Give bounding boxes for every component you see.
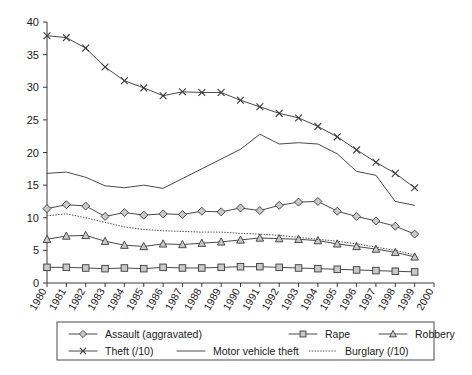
data-point-marker (62, 201, 70, 209)
data-point-marker (315, 265, 322, 272)
legend-item-motor-vehicle-theft[interactable]: Motor vehicle theft (177, 345, 299, 357)
y-tick-label: 30 (27, 81, 39, 93)
data-point-marker (314, 197, 322, 205)
y-tick-label: 20 (27, 147, 39, 159)
data-point-marker (102, 265, 109, 272)
x-tick-label: 1989 (201, 286, 223, 312)
data-point-marker (82, 265, 89, 272)
x-tick-label: 1987 (162, 286, 184, 312)
x-tick-label: 1991 (240, 286, 262, 312)
x-tick-label: 1995 (317, 286, 339, 312)
y-tick-label: 5 (33, 244, 39, 256)
data-point-marker (218, 264, 225, 271)
series-robbery (43, 231, 418, 260)
x-tick-label: 1980 (27, 286, 49, 312)
chart-canvas: 0510152025303540 19801981198219831984198… (0, 0, 472, 375)
legend-label: Assault (aggravated) (105, 328, 202, 340)
x-tick-label: 1981 (46, 286, 68, 312)
data-point-marker (179, 265, 186, 272)
data-point-marker (237, 263, 244, 270)
legend-label: Rape (325, 328, 350, 340)
data-point-marker (44, 264, 51, 271)
y-tick-label: 25 (27, 114, 39, 126)
x-tick-label: 1999 (394, 286, 416, 312)
series-assault-aggravated (43, 197, 419, 238)
y-tick-label: 15 (27, 179, 39, 191)
data-point-marker (79, 330, 86, 337)
data-point-marker (217, 208, 225, 216)
data-point-marker (178, 210, 186, 218)
legend-item-theft-10[interactable]: Theft (/10) (69, 345, 153, 357)
series-line (47, 36, 415, 188)
x-tick-label: 1983 (85, 286, 107, 312)
data-point-marker (82, 202, 90, 210)
y-tick-label: 10 (27, 212, 39, 224)
y-axis: 0510152025303540 (27, 16, 47, 289)
x-tick-label: 1996 (336, 286, 358, 312)
data-point-marker (372, 217, 380, 225)
x-tick-label: 2000 (414, 286, 436, 312)
legend-item-robbery[interactable]: Robbery (379, 328, 455, 340)
data-point-marker (391, 222, 399, 230)
y-tick-label: 35 (27, 49, 39, 61)
data-point-marker (373, 267, 380, 274)
crime-rate-line-chart: 0510152025303540 19801981198219831984198… (0, 0, 472, 375)
data-point-marker (140, 211, 148, 219)
series-line (47, 235, 415, 257)
y-tick-label: 40 (27, 16, 39, 28)
x-tick-label: 1994 (298, 286, 320, 312)
legend-label: Motor vehicle theft (213, 345, 299, 357)
x-tick-label: 1993 (278, 286, 300, 312)
data-point-marker (353, 212, 361, 220)
series-theft-10 (44, 32, 418, 191)
data-point-marker (237, 204, 245, 212)
data-point-marker (256, 207, 264, 215)
data-point-marker (300, 331, 306, 337)
data-point-marker (411, 230, 419, 238)
series-rape (44, 263, 418, 275)
chart-legend: Assault (aggravated)RapeRobberyTheft (/1… (57, 322, 455, 360)
x-tick-label: 1985 (123, 286, 145, 312)
legend-label: Robbery (415, 328, 455, 340)
legend-item-rape[interactable]: Rape (289, 328, 350, 340)
data-point-marker (63, 264, 70, 271)
data-point-marker (140, 265, 147, 272)
series-line (47, 134, 415, 205)
data-point-marker (159, 210, 167, 218)
legend-item-assault-aggravated[interactable]: Assault (aggravated) (69, 328, 202, 340)
data-point-marker (121, 265, 128, 272)
data-point-marker (43, 205, 51, 213)
series-motor-vehicle-theft (47, 134, 415, 205)
data-point-marker (333, 207, 341, 215)
data-point-marker (101, 212, 109, 220)
data-point-marker (199, 265, 206, 272)
data-point-marker (295, 265, 302, 272)
legend-item-burglary-10[interactable]: Burglary (/10) (309, 345, 409, 357)
data-series-group (43, 32, 419, 275)
data-point-marker (198, 207, 206, 215)
x-axis: 1980198119821983198419851986198719881989… (27, 283, 436, 312)
x-tick-label: 1997 (356, 286, 378, 312)
data-point-marker (160, 264, 167, 271)
data-point-marker (334, 266, 341, 273)
x-tick-label: 1992 (259, 286, 281, 312)
data-point-marker (276, 264, 283, 271)
x-tick-label: 1982 (65, 286, 87, 312)
x-tick-label: 1984 (104, 286, 126, 312)
data-point-marker (353, 267, 360, 274)
x-tick-label: 1988 (181, 286, 203, 312)
legend-label: Theft (/10) (105, 345, 153, 357)
legend-label: Burglary (/10) (345, 345, 409, 357)
x-tick-label: 1986 (143, 286, 165, 312)
x-tick-label: 1990 (220, 286, 242, 312)
data-point-marker (411, 269, 418, 276)
data-point-marker (295, 198, 303, 206)
data-point-marker (392, 268, 399, 275)
data-point-marker (120, 209, 128, 217)
data-point-marker (257, 263, 264, 270)
x-tick-label: 1998 (375, 286, 397, 312)
data-point-marker (275, 201, 283, 209)
